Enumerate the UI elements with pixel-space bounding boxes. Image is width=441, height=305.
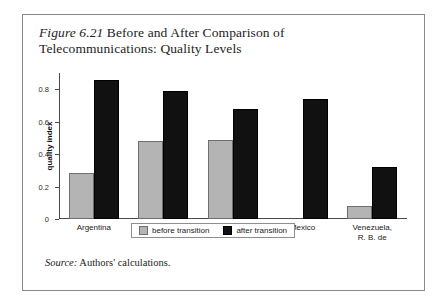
bar-after-transition — [303, 99, 328, 219]
y-axis-title: quality index — [45, 122, 54, 171]
bar-before-transition — [347, 206, 372, 219]
x-axis-category-label-line: R. B. de — [337, 233, 407, 243]
bar-group: Chile — [198, 73, 268, 219]
y-axis-tick-label: 0.2 — [39, 182, 49, 191]
y-axis-tick-label: 0.4 — [39, 150, 49, 159]
x-axis-category-label-line: Venezuela, — [337, 223, 407, 233]
x-axis-category-label-line: Argentina — [59, 223, 129, 233]
legend-label: after transition — [236, 226, 287, 235]
bar-group: Argentina — [59, 73, 129, 219]
bar-before-transition — [69, 173, 94, 219]
y-axis-tick-label: 0.8 — [39, 85, 49, 94]
x-axis-category-label: Argentina — [59, 223, 129, 233]
bar-group: Venezuela,R. B. de — [337, 73, 407, 219]
y-axis-tick-label: 0 — [45, 215, 49, 224]
source-text: Authors' calculations. — [79, 257, 170, 268]
figure-title: Figure 6.21 Before and After Comparison … — [39, 25, 399, 57]
bar-after-transition — [94, 80, 119, 220]
figure-number: Figure 6.21 — [39, 25, 103, 40]
bar-group: Mexico — [268, 73, 338, 219]
legend-entry: after transition — [223, 226, 287, 235]
bar-group: Brazil — [129, 73, 199, 219]
bar-after-transition — [163, 91, 188, 219]
y-axis-tick-label: 0.6 — [39, 117, 49, 126]
source-note: Source: Authors' calculations. — [45, 257, 170, 268]
y-axis-tick: 0 — [55, 219, 59, 220]
bar-after-transition — [233, 109, 258, 219]
legend-swatch-before-transition — [139, 226, 148, 235]
bar-before-transition — [138, 141, 163, 219]
chart-legend: before transitionafter transition — [131, 223, 295, 238]
source-label: Source: — [45, 257, 77, 268]
chart-plot-area: quality index 00.20.40.60.8 ArgentinaBra… — [59, 73, 407, 219]
x-axis-category-label: Venezuela,R. B. de — [337, 223, 407, 243]
bar-after-transition — [372, 167, 397, 219]
bar-before-transition — [208, 140, 233, 219]
figure-frame: Figure 6.21 Before and After Comparison … — [22, 14, 425, 291]
legend-label: before transition — [152, 226, 209, 235]
legend-swatch-after-transition — [223, 226, 232, 235]
legend-entry: before transition — [139, 226, 209, 235]
